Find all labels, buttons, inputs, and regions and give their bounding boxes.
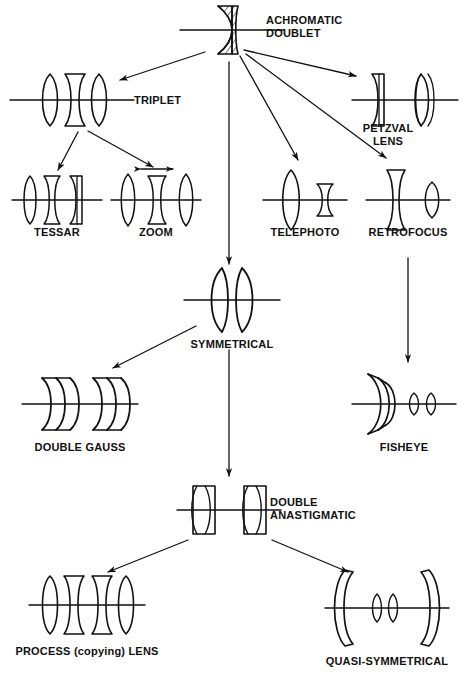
node-label-petzval-lens: PETZVAL LENS: [363, 122, 414, 148]
node-label-symmetrical: SYMMETRICAL: [191, 338, 274, 350]
node-label-achromatic-doublet: ACHROMATIC DOUBLET: [266, 14, 342, 40]
edge-doublet-to-petzval: [244, 50, 356, 76]
node-label-retrofocus: RETROFOCUS: [369, 226, 448, 238]
optical-axis: [10, 30, 458, 608]
node-label-zoom: ZOOM: [139, 226, 173, 238]
edge-symmetrical-to-double-gauss: [113, 326, 196, 368]
double-anastigmatic-line1: DOUBLE: [270, 496, 356, 509]
edge-triplet-to-tessar: [58, 132, 78, 170]
node-label-telephoto: TELEPHOTO: [271, 226, 340, 238]
node-label-process-copying-lens: PROCESS (copying) LENS: [15, 645, 158, 657]
achromatic-doublet-line2: DOUBLET: [266, 27, 342, 40]
edge-triplet-to-zoom: [88, 131, 153, 167]
node-label-triplet: TRIPLET: [134, 94, 181, 106]
double-anastigmatic-line2: ANASTIGMATIC: [270, 509, 356, 522]
node-label-fisheye: FISHEYE: [380, 441, 428, 453]
petzval-line1: PETZVAL: [363, 122, 414, 135]
node-label-double-gauss: DOUBLE GAUSS: [34, 441, 125, 453]
node-label-tessar: TESSAR: [34, 226, 80, 238]
node-label-double-anastigmatic: DOUBLE ANASTIGMATIC: [270, 496, 356, 522]
optic-zoom: [121, 169, 193, 226]
petzval-line2: LENS: [363, 135, 414, 148]
edge-anastigmatic-to-quasi: [272, 540, 348, 572]
node-label-quasi-symmetrical: QUASI-SYMMETRICAL: [326, 655, 449, 667]
lens-family-diagram: ACHROMATIC DOUBLET TRIPLET PETZVAL LENS …: [0, 0, 464, 677]
edge-anastigmatic-to-process: [108, 540, 188, 572]
achromatic-doublet-line1: ACHROMATIC: [266, 14, 342, 27]
edge-doublet-to-triplet: [120, 52, 205, 80]
